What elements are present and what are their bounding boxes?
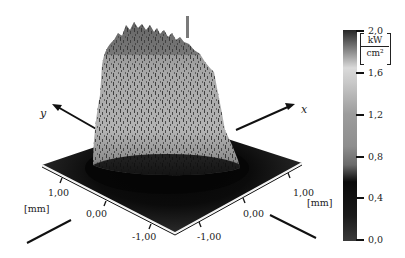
right-axis-line (270, 215, 316, 238)
left-axis-line (27, 220, 71, 243)
y-axis-label: y (40, 108, 46, 119)
chart-figure: y x 1,00 0,00 -1,00 [mm] 1,00 0,00 -1,00… (0, 0, 405, 258)
left-axis-unit: [mm] (24, 204, 49, 214)
y-axis-arrow (56, 106, 98, 130)
x-axis-arrow (236, 106, 290, 130)
left-tick-label: 0,00 (86, 209, 107, 219)
right-tick-label: -1,00 (197, 232, 221, 242)
left-tick-label: 1,00 (48, 188, 69, 198)
colorbar-tick-label: 0,8 (368, 152, 383, 162)
colorbar-tick-label: 1,2 (368, 110, 383, 120)
x-axis-label: x (301, 104, 307, 115)
right-tick-label: 0,00 (243, 209, 264, 219)
colorbar-tick-label: 0,4 (368, 193, 383, 203)
colorbar-unit: kW cm² (361, 35, 389, 58)
unit-numerator: kW (361, 35, 389, 47)
unit-denominator: cm² (361, 47, 389, 58)
intensity-surface (87, 15, 248, 190)
surface-plot (0, 0, 405, 258)
colorbar-tick-label: 1,6 (368, 68, 383, 78)
left-tick-label: -1,00 (132, 232, 156, 242)
colorbar-tick-label: 0,0 (368, 235, 383, 245)
right-axis-unit: [mm] (307, 198, 332, 208)
colorbar (343, 30, 357, 241)
